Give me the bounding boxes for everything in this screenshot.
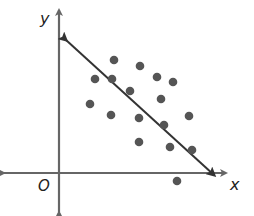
data-point <box>86 100 95 109</box>
scatter-plot: y x O <box>0 0 254 216</box>
data-point <box>135 138 144 147</box>
data-point <box>135 114 144 123</box>
data-points <box>86 56 197 186</box>
data-point <box>136 62 145 71</box>
data-point <box>188 146 197 155</box>
x-axis-label: x <box>229 175 240 194</box>
data-point <box>108 75 117 84</box>
data-point <box>160 121 169 130</box>
data-point <box>169 78 178 87</box>
data-point <box>173 177 182 186</box>
origin-label: O <box>38 177 50 195</box>
data-point <box>126 87 135 96</box>
axis-labels: y x O <box>38 9 240 195</box>
data-point <box>91 75 100 84</box>
data-point <box>157 95 166 104</box>
data-point <box>185 112 194 121</box>
y-axis-label: y <box>39 9 50 28</box>
data-point <box>153 73 162 82</box>
data-point <box>166 143 175 152</box>
data-point <box>110 56 119 65</box>
data-point <box>107 111 116 120</box>
